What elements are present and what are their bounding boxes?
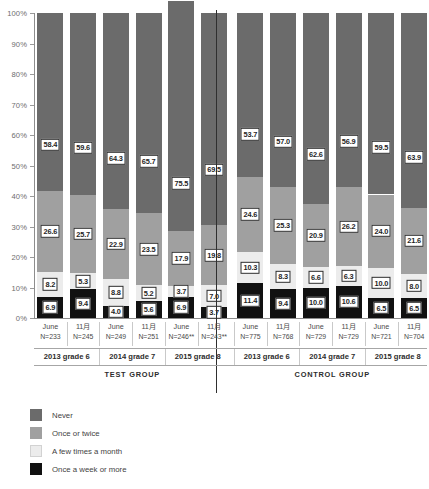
x-axis-label: JuneN=233: [34, 320, 67, 341]
y-axis-tick-mark: [30, 257, 34, 258]
group-header: 2013 grade 6: [234, 349, 300, 365]
bar-segment-never: [401, 13, 427, 208]
bar-value-label: 10.6: [339, 296, 358, 308]
bar-segment-never: [136, 13, 162, 213]
bar-value-label: 24.6: [241, 208, 260, 220]
x-axis-label: JuneN=246**: [165, 320, 198, 341]
y-axis: 100%90%80%70%60%50%40%30%20%10%0%: [0, 8, 30, 330]
x-axis-separator: [267, 322, 268, 346]
legend-swatch-once-a-week-or-more: [30, 463, 42, 475]
x-axis-label: 11月N=251: [132, 320, 165, 341]
x-axis-month: June: [165, 320, 198, 332]
bar-segment-never: [270, 13, 296, 187]
chart-bar: 6.93.717.975.5: [168, 13, 194, 318]
x-axis-set-headers: TEST GROUPCONTROL GROUP: [34, 368, 427, 382]
y-axis-tick-label: 50%: [12, 161, 28, 170]
chart-legend: NeverOnce or twiceA few times a monthOnc…: [30, 406, 280, 478]
chart-bar: 6.98.226.658.4: [37, 13, 63, 318]
y-axis-tick-label: 90%: [12, 39, 28, 48]
bar-value-label: 24.0: [372, 225, 391, 237]
plot-area: 6.98.226.658.49.45.325.759.64.08.822.964…: [34, 13, 427, 318]
x-axis-month: 11月: [398, 320, 429, 332]
y-axis-tick-label: 70%: [12, 100, 28, 109]
bar-value-label: 64.3: [106, 152, 125, 164]
x-axis-sample-size: N=246**: [165, 332, 198, 341]
chart-bar: 11.410.324.653.7: [237, 13, 263, 318]
bar-value-label: 25.3: [274, 219, 293, 231]
bar-segment-never: [201, 13, 227, 225]
x-axis-separator: [398, 322, 399, 346]
x-axis-sample-size: N=768: [267, 332, 300, 341]
bar-value-label: 17.9: [172, 252, 191, 264]
legend-label: Once a week or more: [52, 465, 127, 474]
group-header: 2014 grade 7: [99, 349, 165, 365]
group-header-separator: [165, 349, 166, 365]
bar-segment-never: [168, 1, 194, 231]
x-axis-separator: [99, 322, 100, 346]
bar-value-label: 26.2: [339, 220, 358, 232]
x-axis-sample-size: N=729: [332, 332, 365, 341]
bar-segment-never: [336, 13, 362, 187]
bar-value-label: 5.6: [141, 303, 156, 315]
x-axis-label: 11月N=729: [332, 320, 365, 341]
group-header-separator: [299, 349, 300, 365]
bar-value-label: 10.0: [306, 297, 325, 309]
group-header: 2014 grade 7: [299, 349, 365, 365]
bar-segment-never: [303, 13, 329, 204]
y-axis-tick-mark: [30, 135, 34, 136]
x-axis-line: [34, 318, 427, 319]
bar-value-label: 8.8: [108, 286, 123, 298]
y-axis-tick-label: 0%: [16, 314, 27, 323]
bar-value-label: 11.4: [241, 294, 260, 306]
bar-value-label: 8.0: [407, 280, 422, 292]
x-axis-sample-size: N=721: [365, 332, 398, 341]
x-axis-sample-size: N=704: [398, 332, 429, 341]
group-header-separator: [365, 349, 366, 365]
chart-bar: 10.06.620.962.6: [303, 13, 329, 318]
bar-segment-never: [37, 13, 63, 191]
bar-value-label: 9.4: [276, 297, 291, 309]
legend-label: Never: [52, 411, 73, 420]
y-axis-tick-mark: [30, 166, 34, 167]
bar-value-label: 59.6: [74, 141, 93, 153]
x-axis-month: June: [300, 320, 333, 332]
legend-label: A few times a month: [52, 447, 122, 456]
bar-value-label: 6.5: [374, 302, 389, 314]
x-axis-separator: [365, 322, 366, 346]
x-axis-separator: [67, 322, 68, 346]
bar-value-label: 69.5: [205, 164, 224, 176]
x-axis-separator: [132, 322, 133, 346]
bar-value-label: 57.0: [274, 135, 293, 147]
bar-value-label: 23.5: [139, 243, 158, 255]
bar-segment-never: [237, 13, 263, 177]
chart-bar: 5.65.223.565.7: [136, 13, 162, 318]
chart-bar: 3.77.019.869.5: [201, 13, 227, 318]
x-axis-labels: JuneN=23311月N=245JuneN=24911月N=251JuneN=…: [34, 320, 427, 347]
x-axis-label: 11月N=243**: [198, 320, 231, 341]
stacked-bar-chart: 100%90%80%70%60%50%40%30%20%10%0% 6.98.2…: [0, 0, 429, 340]
x-axis-sample-size: N=233: [34, 332, 67, 341]
legend-item[interactable]: Once or twice: [30, 424, 280, 442]
chart-bar: 6.58.021.663.9: [401, 13, 427, 318]
x-axis-label: JuneN=729: [300, 320, 333, 341]
y-axis-tick-label: 100%: [7, 9, 27, 18]
bar-segment-never: [368, 13, 394, 194]
legend-item[interactable]: Once a week or more: [30, 460, 280, 478]
y-axis-tick-label: 80%: [12, 70, 28, 79]
x-axis-month: 11月: [198, 320, 231, 332]
legend-item[interactable]: Never: [30, 406, 280, 424]
bar-value-label: 10.3: [241, 261, 260, 273]
legend-item[interactable]: A few times a month: [30, 442, 280, 460]
y-axis-tick-label: 60%: [12, 131, 28, 140]
bar-value-label: 8.2: [43, 278, 58, 290]
bar-value-label: 21.6: [405, 235, 424, 247]
x-axis-sample-size: N=243**: [198, 332, 231, 341]
x-axis-label: JuneN=721: [365, 320, 398, 341]
x-axis-sample-size: N=245: [67, 332, 100, 341]
bar-segment-never: [70, 13, 96, 195]
y-axis-tick-mark: [30, 227, 34, 228]
bar-value-label: 5.2: [141, 287, 156, 299]
bar-value-label: 25.7: [74, 228, 93, 240]
x-axis-month: 11月: [67, 320, 100, 332]
group-header: 2013 grade 6: [34, 349, 100, 365]
